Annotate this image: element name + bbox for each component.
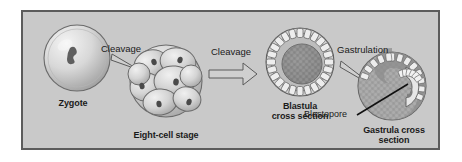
gastrula-cross-section	[358, 48, 426, 120]
blastula-cross-section	[266, 28, 334, 96]
embryo-development-figure: Zygote Cleavage Eight-cell stage Cleavag…	[0, 0, 462, 162]
transition-label-cleavage-2: Cleavage	[211, 46, 251, 57]
cleavage-arrow-2	[209, 63, 257, 85]
stage-label-zygote: Zygote	[35, 98, 111, 108]
diagram-frame: Zygote Cleavage Eight-cell stage Cleavag…	[21, 10, 440, 150]
transition-label-cleavage-1: Cleavage	[101, 43, 141, 54]
annotation-label-blastopore: Blastopore	[304, 109, 347, 119]
eight-cell-stage-cluster	[128, 45, 203, 117]
stage-label-gastrula: Gastrula cross section	[348, 125, 440, 145]
stage-label-eight-cell-stage: Eight-cell stage	[118, 130, 214, 140]
transition-label-gastrulation: Gastrulation	[337, 44, 388, 55]
zygote-cell	[44, 25, 110, 91]
